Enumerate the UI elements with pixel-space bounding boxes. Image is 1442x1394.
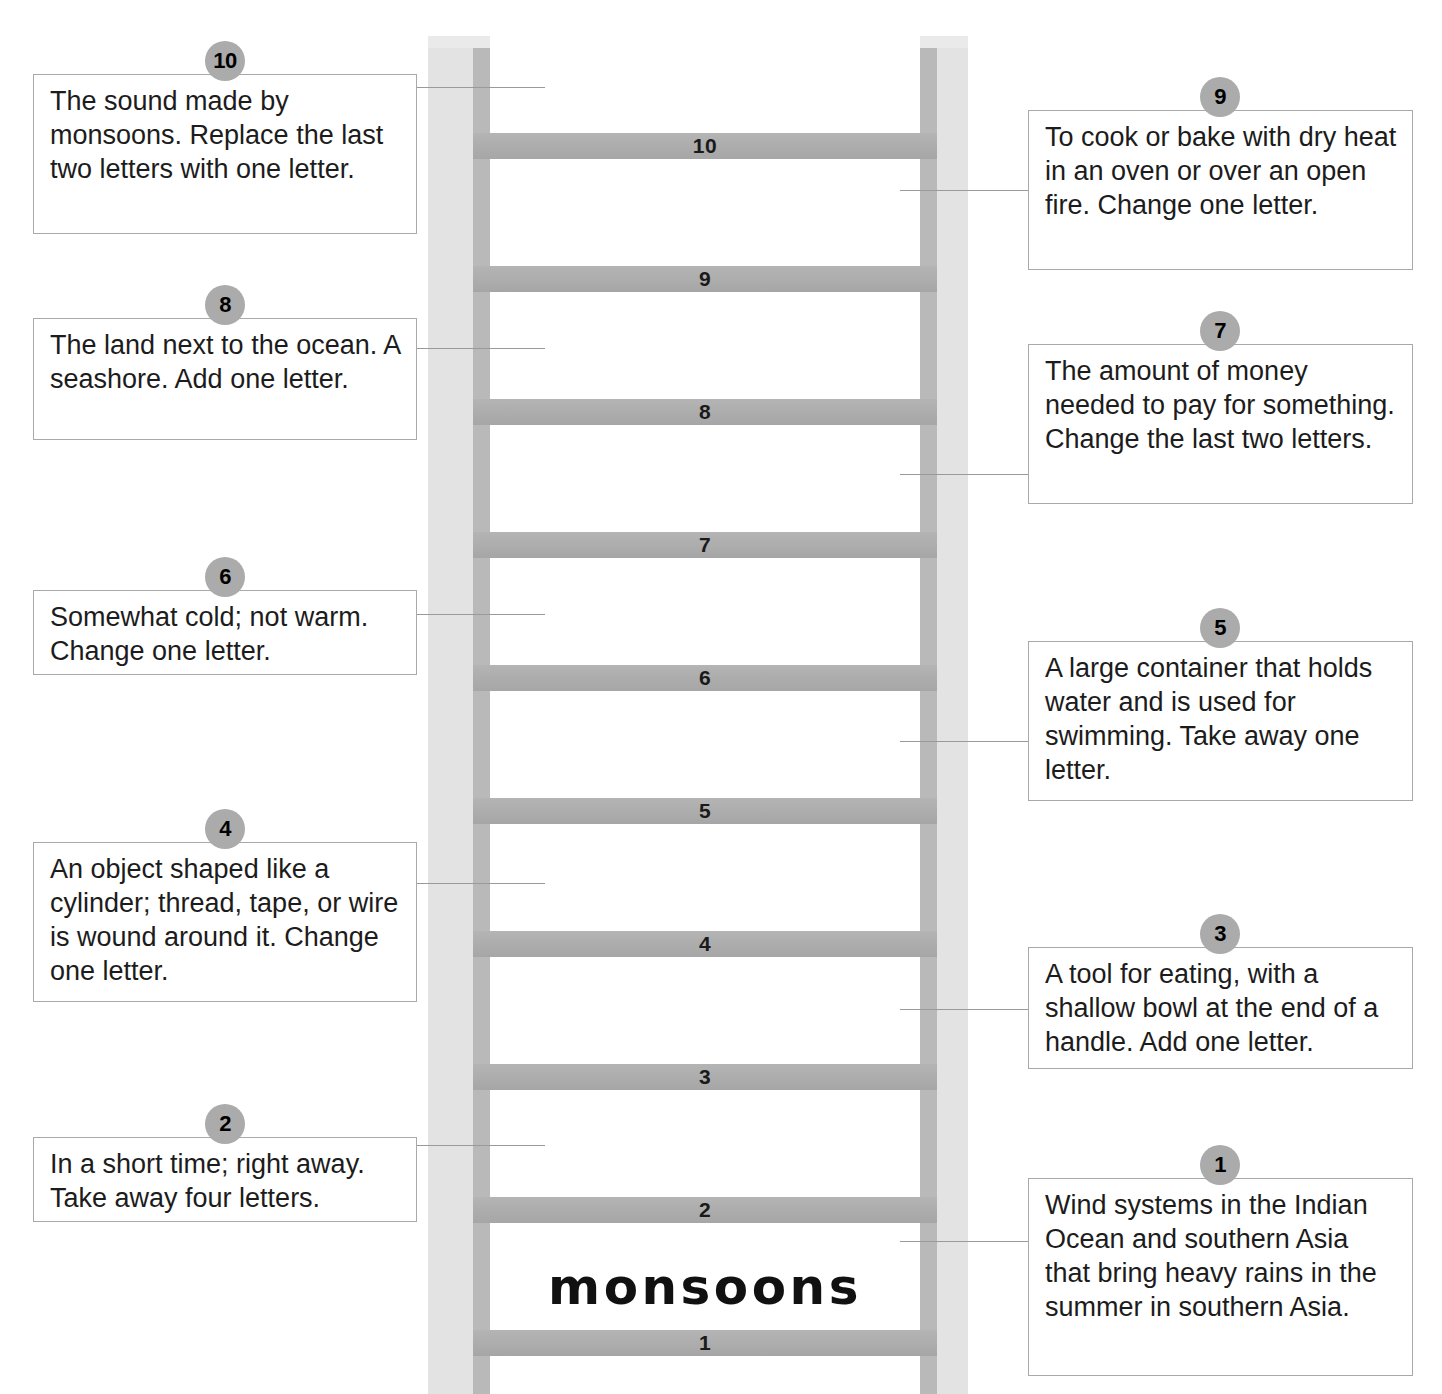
ladder-rung: 6: [473, 665, 937, 691]
clue-box-5[interactable]: A large container that holds water and i…: [1028, 641, 1413, 801]
clue-text-7: The amount of money needed to pay for so…: [1045, 354, 1398, 456]
clue-box-9[interactable]: To cook or bake with dry heat in an oven…: [1028, 110, 1413, 270]
connector-line-7: [900, 474, 1030, 475]
clue-text-4: An object shaped like a cylinder; thread…: [50, 852, 402, 989]
connector-line-3: [900, 1009, 1030, 1010]
ladder-rung: 8: [473, 399, 937, 425]
ladder-rung: 1: [473, 1330, 937, 1356]
clue-badge-7: 7: [1200, 311, 1240, 351]
clue-box-1[interactable]: Wind systems in the Indian Ocean and sou…: [1028, 1178, 1413, 1376]
clue-box-3[interactable]: A tool for eating, with a shallow bowl a…: [1028, 947, 1413, 1069]
clue-badge-3: 3: [1200, 914, 1240, 954]
ladder-rail-left: [428, 36, 490, 1394]
ladder-rung: 9: [473, 266, 937, 292]
clue-text-1: Wind systems in the Indian Ocean and sou…: [1045, 1188, 1398, 1325]
ladder-base-word: monsoons: [473, 1258, 937, 1316]
clue-badge-9: 9: [1200, 77, 1240, 117]
rail-left-outer-face: [428, 36, 490, 1394]
ladder-rung: 3: [473, 1064, 937, 1090]
connector-line-1: [900, 1241, 1030, 1242]
clue-badge-4: 4: [205, 809, 245, 849]
clue-badge-5: 5: [1200, 608, 1240, 648]
rail-right-top-cap: [920, 36, 968, 48]
clue-badge-10: 10: [205, 41, 245, 81]
ladder-rung: 2: [473, 1197, 937, 1223]
clue-badge-1: 1: [1200, 1145, 1240, 1185]
clue-box-7[interactable]: The amount of money needed to pay for so…: [1028, 344, 1413, 504]
connector-line-4: [416, 883, 545, 884]
connector-line-9: [900, 190, 1030, 191]
clue-box-8[interactable]: The land next to the ocean. A seashore. …: [33, 318, 417, 440]
clue-text-3: A tool for eating, with a shallow bowl a…: [1045, 957, 1398, 1059]
clue-text-5: A large container that holds water and i…: [1045, 651, 1398, 788]
connector-line-5: [900, 741, 1030, 742]
clue-text-2: In a short time; right away. Take away f…: [50, 1147, 402, 1215]
rail-right-inner-edge: [920, 36, 937, 1394]
rail-left-inner-edge: [473, 36, 490, 1394]
ladder-rung: 5: [473, 798, 937, 824]
rail-right-outer-face: [920, 36, 968, 1394]
ladder-rung: 4: [473, 931, 937, 957]
clue-box-4[interactable]: An object shaped like a cylinder; thread…: [33, 842, 417, 1002]
clue-text-8: The land next to the ocean. A seashore. …: [50, 328, 402, 396]
clue-badge-2: 2: [205, 1104, 245, 1144]
clue-box-6[interactable]: Somewhat cold; not warm. Change one lett…: [33, 590, 417, 675]
clue-text-9: To cook or bake with dry heat in an oven…: [1045, 120, 1398, 222]
clue-box-2[interactable]: In a short time; right away. Take away f…: [33, 1137, 417, 1222]
connector-line-2: [416, 1145, 545, 1146]
ladder-rail-right: [920, 36, 968, 1394]
word-ladder-worksheet: 10 9 8 7 6 5 4 3 2 1 monsoons The sound …: [0, 0, 1442, 1394]
connector-line-6: [416, 614, 545, 615]
connector-line-8: [416, 348, 545, 349]
rail-left-top-cap: [428, 36, 490, 48]
ladder-rung: 10: [473, 133, 937, 159]
clue-text-10: The sound made by monsoons. Replace the …: [50, 84, 402, 186]
clue-box-10[interactable]: The sound made by monsoons. Replace the …: [33, 74, 417, 234]
ladder-rung: 7: [473, 532, 937, 558]
clue-badge-6: 6: [205, 557, 245, 597]
clue-badge-8: 8: [205, 285, 245, 325]
clue-text-6: Somewhat cold; not warm. Change one lett…: [50, 600, 402, 668]
connector-line-10: [416, 87, 545, 88]
